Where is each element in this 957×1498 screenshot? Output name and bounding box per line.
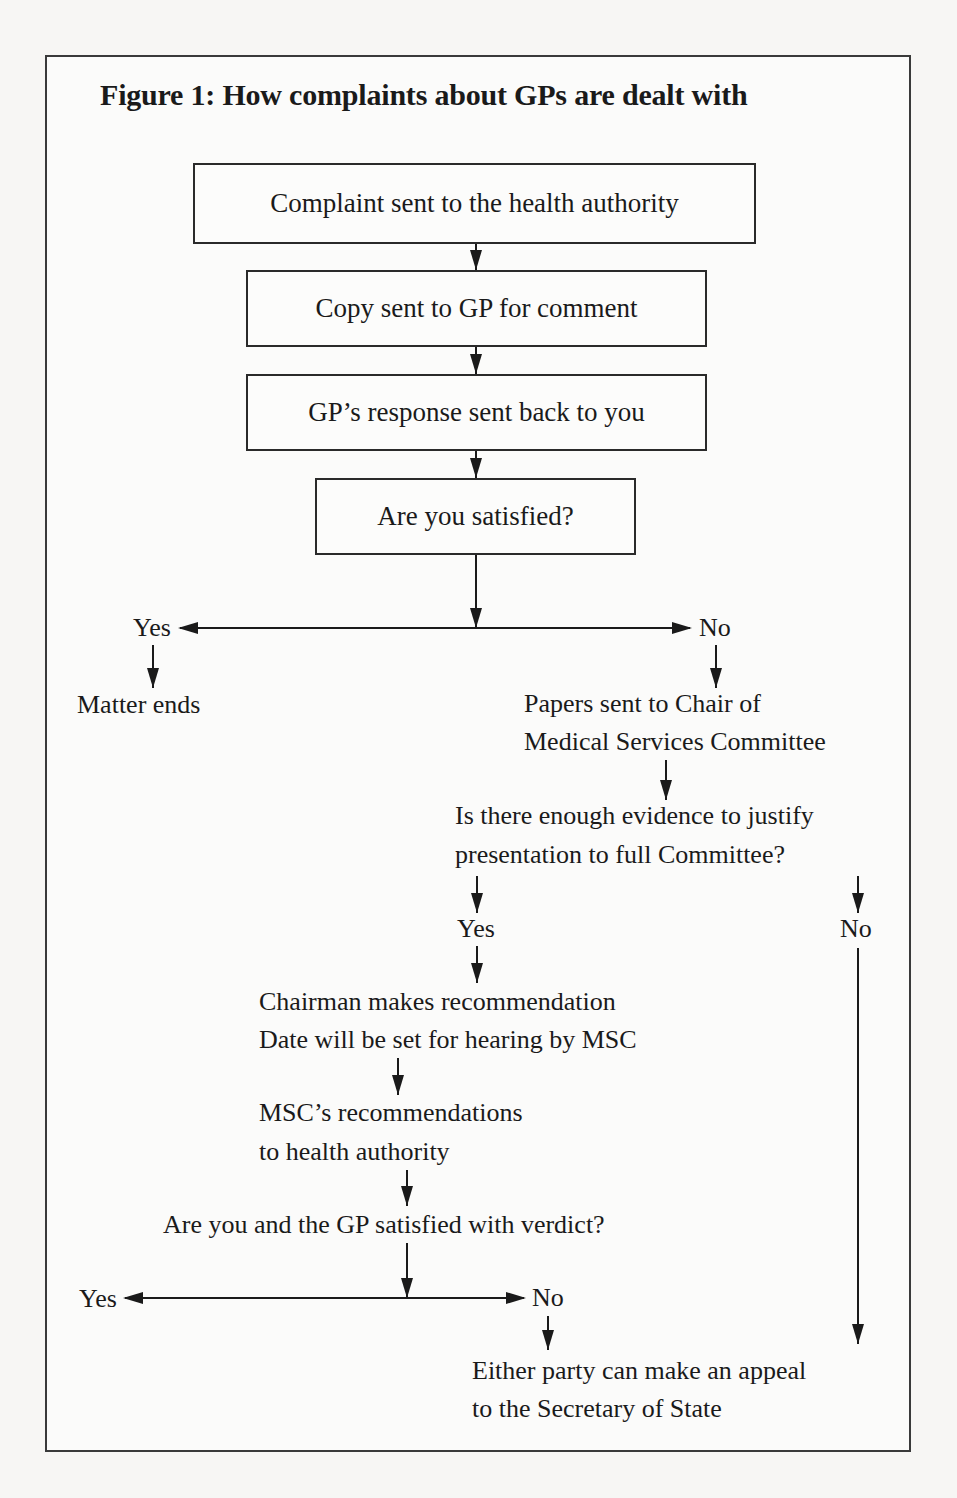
arrow-down-icon (471, 946, 483, 983)
arrow-down-icon (392, 1058, 404, 1095)
arrow-down-icon (401, 1170, 413, 1206)
arrow-down-icon (470, 555, 482, 628)
arrow-down-icon (401, 1243, 413, 1298)
arrow-down-icon (852, 948, 864, 1344)
arrow-down-icon (470, 451, 482, 478)
arrow-down-icon (852, 876, 864, 913)
arrow-down-icon (147, 645, 159, 688)
flow-connectors (0, 0, 957, 1498)
arrow-left-right-icon (178, 622, 692, 634)
arrow-down-icon (710, 645, 722, 688)
arrow-down-icon (542, 1316, 554, 1350)
arrow-down-icon (660, 760, 672, 800)
arrow-left-right-icon (123, 1292, 526, 1304)
arrow-down-icon (470, 244, 482, 270)
arrow-down-icon (471, 876, 483, 913)
arrow-down-icon (470, 347, 482, 374)
